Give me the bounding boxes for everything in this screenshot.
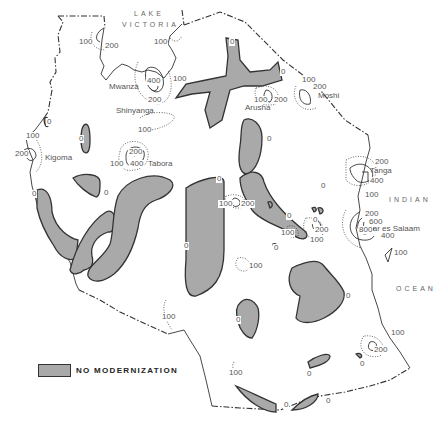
contour-label: 100 [228,369,243,377]
contour-label: 200 [147,96,162,104]
contour-label: 0 [286,212,292,220]
contour-label: 100 [153,38,168,46]
contour-label: 200 [104,42,119,50]
contour-label: 100 [218,200,233,208]
contour-label: 0 [216,175,222,183]
lake-victoria-label-line1: LAKE [134,10,164,17]
contour-label: 200 [128,148,143,156]
contour-label: 400 [146,77,161,85]
legend: NO MODERNIZATION [38,364,178,377]
contour-label: 0 [31,190,37,198]
city-label-shinyanga: Shinyanga [116,107,154,115]
city-label-mwanza: Mwanza [109,83,139,91]
contour-label: 0 [283,401,289,409]
contour-label: 0 [345,292,351,300]
contour-label: 400 [369,177,384,185]
contour-label: 0 [306,370,312,378]
no-modernization-areas [37,38,362,412]
contour-label: 0 [266,135,272,143]
contour-label: 0 [325,397,331,405]
city-label-arusha: Arusha [245,104,270,112]
contour-label: 0 [183,242,189,250]
contour-label: 200 [373,346,388,354]
contour-label: 0 [235,316,241,324]
legend-label: NO MODERNIZATION [76,366,178,375]
contour-label: 100 [253,96,268,104]
contour-label: 0 [78,135,84,143]
contour-label: 200 [374,158,389,166]
contour-label: 0 [103,189,109,197]
contour-label: 100 [109,160,124,168]
contour-label: 100 [309,236,324,244]
contour-label: 200 [240,200,255,208]
indian-ocean-label-line1: INDIAN [389,196,431,203]
contour-label: 0 [359,360,365,368]
contour-label: 0 [46,118,52,126]
contour-label: 200 [273,96,288,104]
contour-label: 400 [380,232,395,240]
contour-label: 0 [312,216,318,224]
contour-label: 100 [390,329,405,337]
contour-label: 100 [25,132,40,140]
contour-label: 400 [129,160,144,168]
contour-label: 100 [137,126,152,134]
contour-label: 100 [393,249,408,257]
legend-swatch-no-modernization [38,364,71,377]
contour-label: 100 [172,75,187,83]
contour-label: 800 [358,226,373,234]
contour-label: 100 [78,38,93,46]
contour-label: 0 [229,38,235,46]
contour-label: 100 [248,262,263,270]
contour-label: 100 [161,313,176,321]
contour-label: 200 [14,150,29,158]
contour-label: 0 [273,244,279,252]
indian-ocean-label-line2: OCEAN [396,285,436,292]
contour-label: 200 [314,226,329,234]
city-label-tanga: Tanga [370,167,392,175]
contour-label: 100 [364,191,379,199]
lake-victoria-label-line2: VICTORIA [122,21,179,28]
contour-label: 200 [312,83,327,91]
contour-label: 0 [280,68,286,76]
city-label-kigoma: Kigoma [45,154,72,162]
city-label-tabora: Tabora [148,160,172,168]
contour-label: 100 [280,229,295,237]
city-label-moshi: Moshi [318,92,339,100]
contour-label: 0 [320,182,326,190]
